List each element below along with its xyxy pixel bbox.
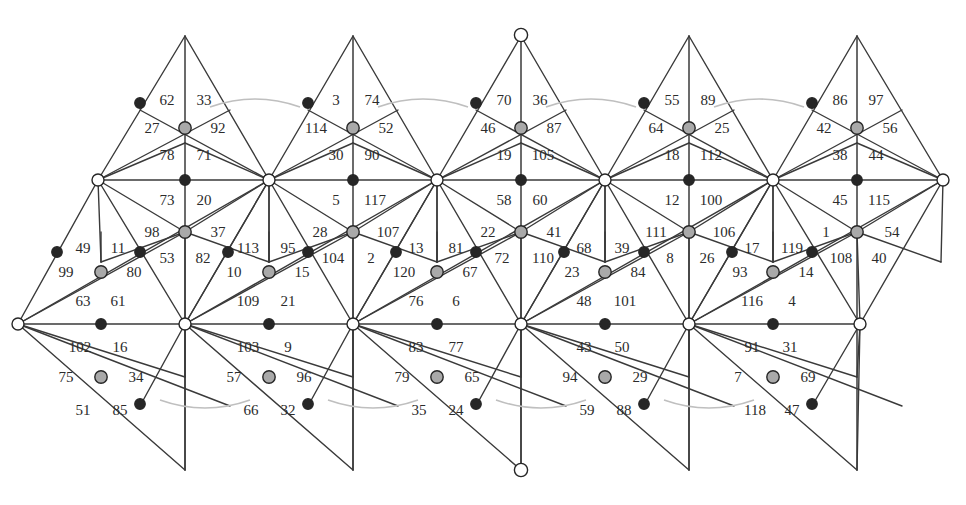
face-number-label: 113: [237, 241, 259, 256]
net-edge: [353, 324, 566, 406]
face-number-label: 73: [160, 193, 175, 208]
vertex-white-dot: [92, 174, 104, 186]
face-number-label: 120: [393, 265, 416, 280]
vertex-black-dot: [223, 247, 233, 257]
vertex-black-dot: [807, 247, 817, 257]
face-number-label: 11: [111, 241, 125, 256]
face-number-label: 9: [284, 340, 292, 355]
face-number-label: 22: [481, 225, 496, 240]
face-number-label: 26: [700, 251, 715, 266]
vertex-white-dot: [347, 318, 359, 330]
vertex-gray-dot: [599, 266, 611, 278]
face-number-label: 21: [281, 294, 296, 309]
face-number-label: 12: [665, 193, 680, 208]
vertex-black-dot: [135, 98, 145, 108]
face-number-label: 56: [883, 121, 898, 136]
face-number-label: 27: [145, 121, 160, 136]
face-number-label: 62: [160, 93, 175, 108]
face-number-label: 57: [227, 370, 242, 385]
vertex-black-dot: [807, 399, 817, 409]
face-number-label: 34: [129, 370, 144, 385]
vertex-white-dot: [515, 318, 527, 330]
face-number-label: 64: [649, 121, 664, 136]
face-number-label: 80: [127, 265, 142, 280]
face-number-label: 15: [295, 265, 310, 280]
vertex-black-dot: [852, 175, 862, 185]
identification-arc: [160, 400, 250, 408]
face-number-label: 116: [741, 294, 763, 309]
face-number-label: 44: [869, 148, 884, 163]
vertex-black-dot: [52, 247, 62, 257]
face-number-label: 95: [281, 241, 296, 256]
vertex-gray-dot: [851, 226, 863, 238]
vertex-black-dot: [471, 247, 481, 257]
face-number-label: 7: [734, 370, 742, 385]
vertex-black-dot: [684, 175, 694, 185]
identification-arc: [664, 400, 754, 408]
face-number-label: 61: [111, 294, 126, 309]
face-number-label: 48: [577, 294, 592, 309]
face-number-label: 67: [463, 265, 478, 280]
vertex-white-dot: [767, 174, 779, 186]
face-number-label: 88: [617, 403, 632, 418]
vertex-white-dot: [431, 174, 443, 186]
face-number-label: 71: [197, 148, 212, 163]
face-number-label: 23: [565, 265, 580, 280]
vertex-gray-dot: [515, 122, 527, 134]
net-diagram: [0, 0, 966, 505]
vertex-white-dot: [514, 463, 527, 476]
face-number-label: 103: [237, 340, 260, 355]
vertex-white-dot: [514, 28, 527, 41]
face-number-label: 93: [733, 265, 748, 280]
face-number-label: 63: [76, 294, 91, 309]
net-edge: [269, 180, 353, 232]
vertex-black-dot: [432, 319, 442, 329]
net-edge: [689, 324, 902, 406]
face-number-label: 39: [615, 241, 630, 256]
face-number-label: 6: [452, 294, 460, 309]
net-edge: [185, 324, 353, 470]
net-edge: [812, 110, 943, 180]
vertex-gray-dot: [767, 266, 779, 278]
identification-arc: [378, 99, 468, 107]
face-number-label: 102: [69, 340, 92, 355]
face-number-label: 101: [614, 294, 637, 309]
face-number-label: 60: [533, 193, 548, 208]
face-number-label: 59: [580, 403, 595, 418]
face-number-label: 3: [332, 93, 340, 108]
face-number-label: 18: [665, 148, 680, 163]
vertex-black-dot: [639, 247, 649, 257]
vertex-black-dot: [96, 319, 106, 329]
vertex-black-dot: [135, 399, 145, 409]
face-number-label: 41: [547, 225, 562, 240]
face-number-label: 1: [822, 225, 830, 240]
vertex-gray-dot: [767, 371, 779, 383]
vertex-gray-dot: [95, 266, 107, 278]
face-number-label: 94: [563, 370, 578, 385]
face-number-label: 2: [367, 251, 375, 266]
face-number-label: 114: [305, 121, 327, 136]
vertex-black-dot: [303, 247, 313, 257]
vertex-black-dot: [180, 175, 190, 185]
face-number-label: 117: [364, 193, 386, 208]
vertex-black-dot: [135, 247, 145, 257]
vertex-black-dot: [727, 247, 737, 257]
face-number-label: 69: [801, 370, 816, 385]
face-number-label: 54: [885, 225, 900, 240]
vertex-white-dot: [263, 174, 275, 186]
face-number-label: 25: [715, 121, 730, 136]
face-number-label: 53: [160, 251, 175, 266]
vertex-white-dot: [179, 318, 191, 330]
vertex-black-dot: [600, 319, 610, 329]
vertex-black-dot: [768, 319, 778, 329]
face-number-label: 52: [379, 121, 394, 136]
vertex-black-dot: [807, 98, 817, 108]
face-number-label: 81: [449, 241, 464, 256]
face-number-label: 28: [313, 225, 328, 240]
identification-arc: [714, 99, 804, 107]
face-number-label: 75: [59, 370, 74, 385]
face-number-label: 100: [700, 193, 723, 208]
face-number-label: 30: [329, 148, 344, 163]
face-number-label: 32: [281, 403, 296, 418]
face-number-label: 37: [211, 225, 226, 240]
